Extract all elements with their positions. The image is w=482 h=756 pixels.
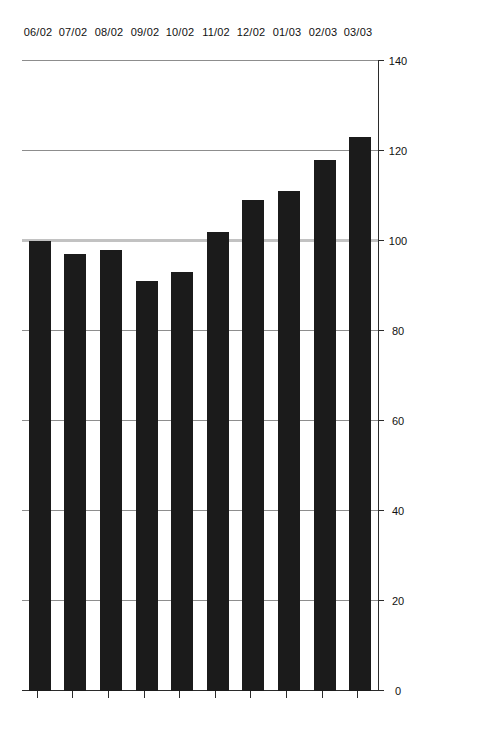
- value-tick-label-100: 100: [381, 235, 415, 247]
- bar-fill: [207, 232, 229, 691]
- value-tick-label-120: 120: [381, 145, 415, 157]
- value-tick-label-80: 80: [381, 325, 415, 337]
- category-label-03-03: 03/03: [335, 26, 381, 38]
- bar-fill: [64, 255, 86, 692]
- category-tick: [286, 691, 287, 698]
- figure-container: 140120100806040200 06/0207/0208/0209/021…: [0, 0, 482, 756]
- plot-area: [22, 61, 378, 691]
- category-tick: [179, 691, 180, 698]
- category-tick: [144, 691, 145, 698]
- category-tick: [250, 691, 251, 698]
- value-tick-label-60: 60: [381, 415, 415, 427]
- bars-layer: [22, 61, 378, 691]
- category-tick: [322, 691, 323, 698]
- value-axis-line: [378, 61, 379, 691]
- bar-11-02: [207, 61, 229, 691]
- bar-fill: [100, 250, 122, 691]
- bar-fill: [29, 241, 51, 691]
- bar-09-02: [136, 61, 158, 691]
- chart-canvas: 140120100806040200 06/0207/0208/0209/021…: [6, 23, 410, 749]
- value-tick-label-140: 140: [381, 55, 415, 67]
- category-tick: [357, 691, 358, 698]
- bar-06-02: [29, 61, 51, 691]
- bar-01-03: [278, 61, 300, 691]
- bar-10-02: [171, 61, 193, 691]
- bar-07-02: [64, 61, 86, 691]
- bar-fill: [278, 192, 300, 692]
- value-tick-label-0: 0: [381, 685, 415, 697]
- bar-08-02: [100, 61, 122, 691]
- bar-fill: [171, 273, 193, 692]
- bar-03-03: [349, 61, 371, 691]
- category-tick: [37, 691, 38, 698]
- bar-fill: [136, 282, 158, 692]
- category-tick: [215, 691, 216, 698]
- bar-02-03: [314, 61, 336, 691]
- value-tick-label-20: 20: [381, 595, 415, 607]
- bar-fill: [314, 160, 336, 691]
- bar-fill: [242, 201, 264, 692]
- category-tick: [108, 691, 109, 698]
- bar-fill: [349, 138, 371, 692]
- category-tick: [72, 691, 73, 698]
- value-tick-label-40: 40: [381, 505, 415, 517]
- bar-12-02: [242, 61, 264, 691]
